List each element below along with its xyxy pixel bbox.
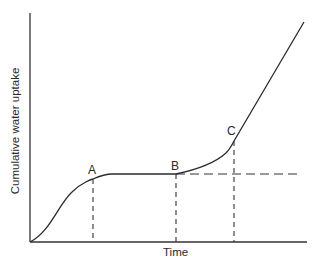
point-a-label: A <box>88 163 96 177</box>
point-c-label: C <box>227 124 236 138</box>
uptake-curve <box>30 22 304 242</box>
x-axis-title: Time <box>163 246 188 258</box>
y-axis-title: Cumulative water uptake <box>9 68 21 195</box>
point-b-label: B <box>171 159 179 173</box>
water-uptake-diagram: A B C Time Cumulative water uptake <box>0 0 325 269</box>
